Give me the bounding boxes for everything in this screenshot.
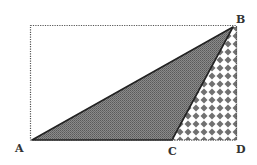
point-label-c: C	[168, 145, 177, 158]
geometry-diagram: A B C D	[0, 0, 257, 165]
point-label-a: A	[14, 142, 24, 155]
point-label-d: D	[236, 143, 246, 156]
point-label-b: B	[236, 13, 245, 26]
